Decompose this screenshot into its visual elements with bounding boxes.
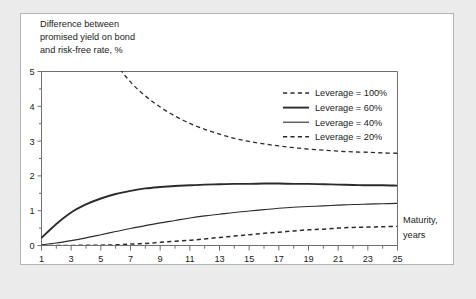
y-tick-label: 3 bbox=[29, 137, 34, 147]
legend-label-3: Leverage = 20% bbox=[315, 132, 382, 142]
x-tick-label: 23 bbox=[363, 254, 373, 264]
legend-label-1: Leverage = 60% bbox=[315, 103, 382, 113]
chart-canvas: Difference between promised yield on bon… bbox=[21, 14, 453, 264]
y-tick-label: 0 bbox=[29, 241, 34, 251]
y-tick-label: 2 bbox=[29, 171, 34, 181]
x-axis-ticks bbox=[42, 246, 398, 251]
y-tick-label: 5 bbox=[29, 67, 34, 77]
x-axis-title-line-2: years bbox=[403, 230, 426, 240]
x-axis-title-line-1: Maturity, bbox=[403, 215, 438, 225]
series-line-1 bbox=[42, 184, 398, 238]
x-tick-label: 1 bbox=[39, 254, 44, 264]
y-axis-ticks bbox=[38, 72, 42, 246]
y-tick-label: 4 bbox=[29, 102, 34, 112]
y-axis-title-line-1: Difference between bbox=[40, 19, 119, 29]
x-tick-label: 21 bbox=[333, 254, 343, 264]
series-line-2 bbox=[42, 203, 398, 244]
x-tick-label: 7 bbox=[128, 254, 133, 264]
line-chart: Difference between promised yield on bon… bbox=[21, 14, 453, 264]
x-tick-label: 3 bbox=[69, 254, 74, 264]
chart-legend: Leverage = 100%Leverage = 60%Leverage = … bbox=[283, 88, 387, 142]
x-tick-label: 19 bbox=[303, 254, 313, 264]
x-tick-label: 9 bbox=[158, 254, 163, 264]
x-axis-title: Maturity, years bbox=[403, 215, 438, 240]
y-axis-tick-labels: 012345 bbox=[29, 67, 34, 251]
x-tick-label: 17 bbox=[274, 254, 284, 264]
legend-label-2: Leverage = 40% bbox=[315, 118, 382, 128]
x-axis-tick-labels: 135791113151719212325 bbox=[39, 254, 403, 264]
x-tick-label: 15 bbox=[244, 254, 254, 264]
x-tick-label: 13 bbox=[214, 254, 224, 264]
y-axis-title-line-2: promised yield on bond bbox=[40, 32, 135, 42]
y-axis-title-line-3: and risk-free rate, % bbox=[40, 45, 123, 55]
legend-label-0: Leverage = 100% bbox=[315, 88, 387, 98]
x-tick-label: 5 bbox=[98, 254, 103, 264]
figure-card: Difference between promised yield on bon… bbox=[20, 13, 454, 265]
x-tick-label: 25 bbox=[392, 254, 402, 264]
y-axis-title: Difference between promised yield on bon… bbox=[40, 19, 135, 55]
x-tick-label: 11 bbox=[185, 254, 195, 264]
y-tick-label: 1 bbox=[29, 206, 34, 216]
